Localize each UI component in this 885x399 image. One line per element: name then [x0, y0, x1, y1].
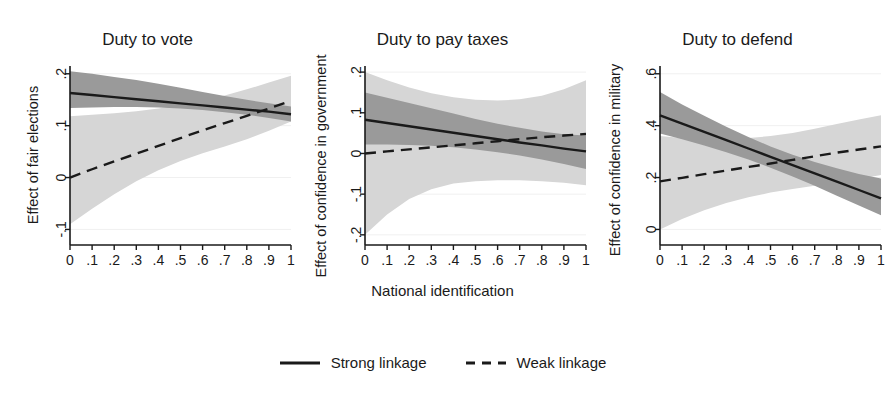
- plot-area: 0.1.2.3.4.5.6.7.8.910.2.4.6: [638, 62, 885, 277]
- svg-text:0: 0: [53, 173, 69, 181]
- panels-row: Duty to vote Effect of fair elections 0.…: [0, 0, 885, 330]
- x-axis-title: National identification: [295, 282, 590, 299]
- svg-text:.4: .4: [643, 120, 659, 132]
- svg-text:.1: .1: [348, 107, 364, 119]
- svg-text:0: 0: [656, 252, 664, 268]
- svg-text:.6: .6: [787, 252, 799, 268]
- svg-text:.7: .7: [809, 252, 821, 268]
- svg-text:.5: .5: [175, 252, 187, 268]
- svg-text:.4: .4: [743, 252, 755, 268]
- panel-title: Duty to pay taxes: [295, 30, 590, 50]
- y-axis-title: Effect of confidence in government: [309, 48, 331, 283]
- legend-label: Weak linkage: [517, 354, 607, 371]
- plot-area: 0.1.2.3.4.5.6.7.8.91-.2-.10.1.2: [343, 62, 590, 277]
- panel-title: Duty to defend: [590, 30, 885, 50]
- svg-text:.1: .1: [86, 252, 98, 268]
- svg-text:0: 0: [643, 225, 659, 233]
- dashed-line-icon: [465, 357, 507, 369]
- solid-line-icon: [279, 357, 321, 369]
- svg-text:.6: .6: [197, 252, 209, 268]
- panel-title: Duty to vote: [0, 30, 295, 50]
- svg-text:.9: .9: [263, 252, 275, 268]
- svg-text:.9: .9: [853, 252, 865, 268]
- svg-text:1: 1: [582, 252, 590, 268]
- svg-text:.8: .8: [536, 252, 548, 268]
- svg-text:.2: .2: [403, 252, 415, 268]
- svg-text:.3: .3: [720, 252, 732, 268]
- svg-text:.4: .4: [153, 252, 165, 268]
- svg-text:.8: .8: [831, 252, 843, 268]
- svg-text:.3: .3: [425, 252, 437, 268]
- figure-panel-group: Duty to vote Effect of fair elections 0.…: [0, 0, 885, 399]
- svg-text:.7: .7: [514, 252, 526, 268]
- svg-text:.5: .5: [765, 252, 777, 268]
- svg-text:.2: .2: [108, 252, 120, 268]
- panel-duty-to-pay-taxes: Duty to pay taxes Effect of confidence i…: [295, 0, 590, 330]
- legend: Strong linkage Weak linkage: [0, 340, 885, 385]
- legend-item-strong-linkage: Strong linkage: [279, 354, 427, 371]
- svg-text:.4: .4: [448, 252, 460, 268]
- svg-text:.2: .2: [698, 252, 710, 268]
- svg-text:-.1: -.1: [348, 186, 364, 203]
- svg-text:.2: .2: [53, 68, 69, 80]
- legend-item-weak-linkage: Weak linkage: [465, 354, 607, 371]
- y-axis-title: Effect of fair elections: [22, 55, 44, 255]
- svg-text:.1: .1: [53, 120, 69, 132]
- svg-text:0: 0: [348, 149, 364, 157]
- svg-text:.2: .2: [348, 66, 364, 78]
- panel-duty-to-vote: Duty to vote Effect of fair elections 0.…: [0, 0, 295, 330]
- svg-text:1: 1: [877, 252, 885, 268]
- svg-text:.7: .7: [219, 252, 231, 268]
- svg-text:-.2: -.2: [348, 226, 364, 243]
- svg-text:0: 0: [66, 252, 74, 268]
- svg-text:-.1: -.1: [53, 221, 69, 238]
- svg-text:.9: .9: [558, 252, 570, 268]
- svg-text:.1: .1: [381, 252, 393, 268]
- svg-text:.6: .6: [643, 68, 659, 80]
- plot-area: 0.1.2.3.4.5.6.7.8.91-.10.1.2: [48, 62, 295, 277]
- svg-text:.1: .1: [676, 252, 688, 268]
- svg-text:.2: .2: [643, 172, 659, 184]
- panel-duty-to-defend: Duty to defend Effect of confidence in m…: [590, 0, 885, 330]
- legend-label: Strong linkage: [331, 354, 427, 371]
- svg-text:.8: .8: [241, 252, 253, 268]
- y-axis-title: Effect of confidence in military: [604, 50, 626, 270]
- svg-text:0: 0: [361, 252, 369, 268]
- svg-text:.3: .3: [130, 252, 142, 268]
- svg-text:.6: .6: [492, 252, 504, 268]
- svg-text:1: 1: [287, 252, 295, 268]
- svg-text:.5: .5: [470, 252, 482, 268]
